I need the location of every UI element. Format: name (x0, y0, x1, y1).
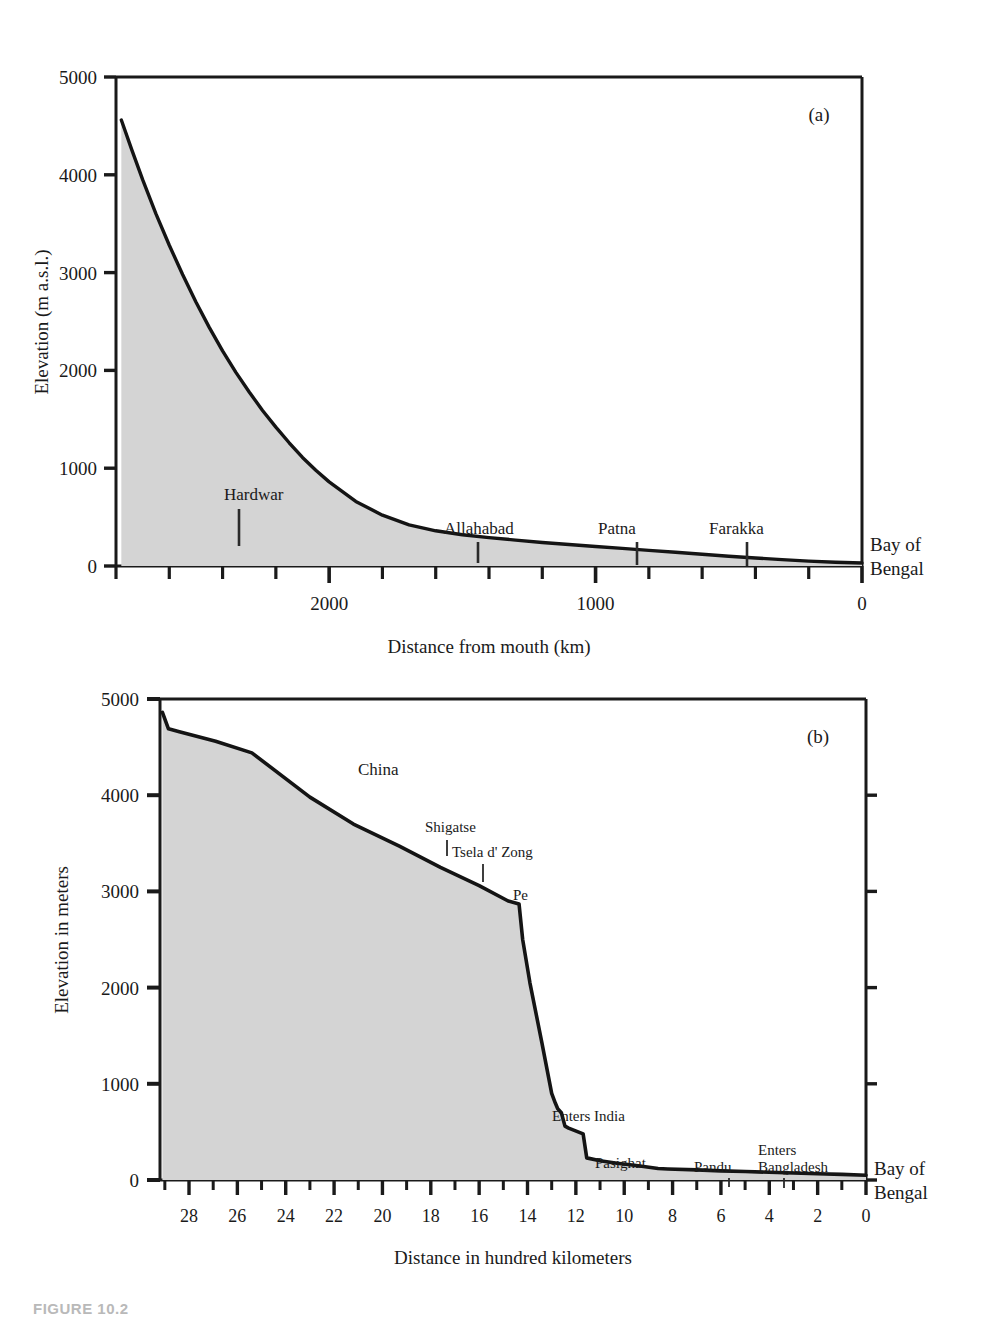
panel-a-y-axis-title: Elevation (m a.s.l.) (31, 249, 53, 394)
panel-a-x-ticks (116, 566, 862, 583)
annotation-tsela-d-zong: Tsela d' Zong (452, 844, 533, 882)
panel-b-x-tick-label: 12 (567, 1206, 585, 1226)
panel-b-label: (b) (807, 726, 829, 748)
panel-b-x-tick-label: 8 (668, 1206, 677, 1226)
panel-b-svg: 010002000300040005000 282624222018161412… (0, 660, 993, 1300)
panel-b-y-tick-label: 1000 (101, 1074, 139, 1095)
figure-caption: FIGURE 10.2 (33, 1300, 129, 1317)
annotation-allahabad-label: Allahabad (444, 519, 514, 538)
annotation-hardwar-label: Hardwar (224, 485, 284, 504)
panel-a-bay-line1: Bay of (870, 534, 922, 555)
panel-b-x-tick-label: 26 (228, 1206, 246, 1226)
panel-b-x-tick-labels: 2826242220181614121086420 (180, 1206, 870, 1226)
panel-b-y-tick-label: 2000 (101, 978, 139, 999)
panel-b-x-tick-label: 24 (277, 1206, 295, 1226)
panel-a-svg: 010002000300040005000 200010000 Elevatio… (0, 0, 993, 670)
panel-b-x-tick-label: 4 (765, 1206, 774, 1226)
panel-a-y-tick-label: 4000 (59, 165, 97, 186)
panel-b-x-tick-label: 20 (373, 1206, 391, 1226)
panel-b-x-tick-label: 0 (862, 1206, 871, 1226)
panel-b-y-tick-label: 3000 (101, 881, 139, 902)
panel-a-x-tick-label: 1000 (577, 593, 615, 614)
panel-b-x-tick-label: 14 (519, 1206, 537, 1226)
annotation-patna-label: Patna (598, 519, 636, 538)
panel-a-label: (a) (808, 104, 829, 126)
panel-b-y-tick-label: 0 (130, 1170, 140, 1191)
panel-b-x-tick-label: 10 (615, 1206, 633, 1226)
panel-b-y-tick-labels: 010002000300040005000 (101, 689, 139, 1191)
panel-b-bay-line1: Bay of (874, 1158, 926, 1179)
annotation-pe-label: Pe (513, 887, 528, 903)
panel-b-y-ticks (147, 699, 160, 1180)
panel-b-y-tick-label: 4000 (101, 785, 139, 806)
panel-a-y-tick-label: 0 (88, 556, 98, 577)
panel-a-y-tick-labels: 010002000300040005000 (59, 67, 97, 577)
panel-a-x-tick-label: 2000 (310, 593, 348, 614)
annotation-enters-line2: Bangladesh (758, 1159, 828, 1175)
panel-b-bay-line2: Bengal (874, 1182, 928, 1203)
panel-b-x-tick-label: 2 (813, 1206, 822, 1226)
panel-a-bay-line2: Bengal (870, 558, 924, 579)
panel-b-y-ticks-right (866, 795, 877, 1180)
annotation-pasighat-label: Pasighat (595, 1155, 647, 1171)
annotation-enters-india-label: Enters India (552, 1108, 625, 1124)
panel-a-y-tick-label: 2000 (59, 360, 97, 381)
panel-a-x-tick-label: 0 (857, 593, 867, 614)
panel-b-y-tick-label: 5000 (101, 689, 139, 710)
panel-b-x-tick-label: 6 (716, 1206, 725, 1226)
panel-b-x-tick-label: 18 (422, 1206, 440, 1226)
panel-b-x-tick-label: 16 (470, 1206, 488, 1226)
panel-a-x-axis-title: Distance from mouth (km) (387, 636, 590, 658)
panel-b-x-ticks (165, 1180, 866, 1195)
panel-a-edge-label: Bay of Bengal (870, 534, 924, 579)
annotation-enters-line1: Enters (758, 1142, 796, 1158)
chart-panel-a: 010002000300040005000 200010000 Elevatio… (0, 0, 993, 670)
panel-a-x-tick-labels: 200010000 (310, 593, 867, 614)
annotation-tsela-label: Tsela d' Zong (452, 844, 533, 860)
panel-b-x-axis-title: Distance in hundred kilometers (394, 1247, 632, 1268)
annotation-pandu: Pandu (694, 1159, 732, 1187)
panel-b-x-tick-label: 22 (325, 1206, 343, 1226)
annotation-china-label: China (358, 760, 399, 779)
annotation-shigatse-label: Shigatse (425, 819, 476, 835)
panel-a-y-tick-label: 5000 (59, 67, 97, 88)
panel-b-y-axis-title: Elevation in meters (51, 866, 72, 1014)
panel-b-x-tick-label: 28 (180, 1206, 198, 1226)
panel-b-profile (162, 712, 866, 1180)
panel-a-y-tick-label: 3000 (59, 263, 97, 284)
annotation-pandu-label: Pandu (694, 1159, 732, 1175)
panel-a-y-tick-label: 1000 (59, 458, 97, 479)
panel-b-edge-label: Bay of Bengal (874, 1158, 928, 1203)
figure-root: 010002000300040005000 200010000 Elevatio… (0, 0, 993, 1320)
annotation-farakka-label: Farakka (709, 519, 764, 538)
panel-a-y-ticks (104, 77, 116, 566)
chart-panel-b: 010002000300040005000 282624222018161412… (0, 660, 993, 1300)
